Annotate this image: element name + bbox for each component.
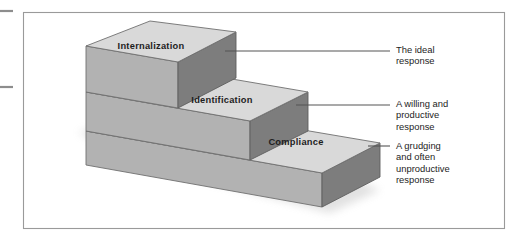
step-label-internalization: Internalization <box>118 41 185 51</box>
callout-compliance: A grudging and often unproductive respon… <box>396 140 450 186</box>
callout-identification: A willing and productive response <box>396 98 448 132</box>
figure-canvas: Internalization Identification Complianc… <box>0 0 528 247</box>
callout-internalization: The ideal response <box>396 44 435 67</box>
step-label-identification: Identification <box>191 95 252 105</box>
step-label-compliance: Compliance <box>268 137 323 147</box>
staircase-diagram-svg: Internalization Identification Complianc… <box>0 0 528 247</box>
